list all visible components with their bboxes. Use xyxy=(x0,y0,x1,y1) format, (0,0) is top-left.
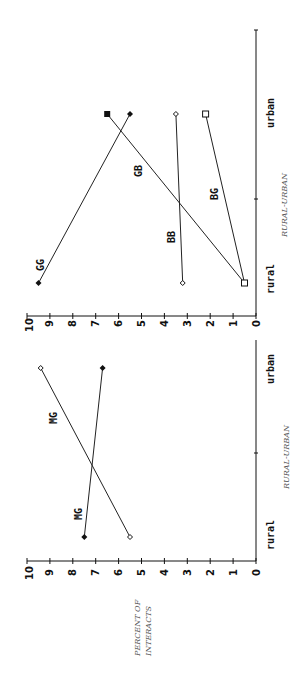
mg-label-lower: MG xyxy=(73,508,84,520)
top-x-axis-title: RURAL-URBAN xyxy=(280,172,289,238)
bg-label: BG xyxy=(209,188,220,200)
svg-text:0: 0 xyxy=(251,569,262,576)
figure: 0 1 2 3 4 5 6 7 8 9 10 rural urban RURAL… xyxy=(0,0,302,673)
svg-text:2: 2 xyxy=(205,320,216,327)
series-mg-filled-line xyxy=(84,368,102,537)
svg-text:10: 10 xyxy=(24,318,35,332)
svg-text:8: 8 xyxy=(67,320,78,327)
bottom-y-tick-labels: 0 1 2 3 4 5 6 7 8 9 10 xyxy=(24,566,262,580)
svg-text:3: 3 xyxy=(182,320,193,327)
y-axis-title-line1: PERCENT OF xyxy=(133,599,142,657)
mg-filled-rural-marker xyxy=(81,534,87,540)
series-mg-open-line xyxy=(41,368,130,537)
svg-text:1: 1 xyxy=(228,569,239,576)
svg-text:5: 5 xyxy=(136,320,147,327)
svg-text:7: 7 xyxy=(90,569,101,576)
bottom-chart: 0 1 2 3 4 5 6 7 8 9 10 rural urban RURAL… xyxy=(24,340,291,657)
svg-text:6: 6 xyxy=(113,320,124,327)
gb-label: GB xyxy=(133,165,144,177)
svg-text:5: 5 xyxy=(136,569,147,576)
y-axis-title-line2: INTERACTS xyxy=(144,605,153,657)
mg-label-upper: MG xyxy=(48,412,59,424)
svg-text:9: 9 xyxy=(44,320,55,327)
gg-label: GG xyxy=(35,259,46,271)
svg-text:3: 3 xyxy=(182,569,193,576)
svg-text:9: 9 xyxy=(44,569,55,576)
bb-label: BB xyxy=(166,231,177,243)
svg-text:4: 4 xyxy=(159,320,170,327)
top-chart: 0 1 2 3 4 5 6 7 8 9 10 rural urban RURAL… xyxy=(24,30,289,332)
bottom-x-axis-title: RURAL-URBAN xyxy=(282,424,291,490)
top-urban-label: urban xyxy=(265,98,276,128)
svg-text:6: 6 xyxy=(113,569,124,576)
gb-bg-rural-marker xyxy=(242,280,248,286)
top-y-tick-labels: 0 1 2 3 4 5 6 7 8 9 10 xyxy=(24,318,262,332)
svg-text:2: 2 xyxy=(205,569,216,576)
mg-filled-urban-marker xyxy=(100,365,106,371)
svg-text:7: 7 xyxy=(90,320,101,327)
series-gb-line xyxy=(107,114,244,283)
series-gg-line xyxy=(39,114,131,283)
mg-open-rural-marker xyxy=(128,535,133,540)
bg-urban-marker xyxy=(203,111,209,117)
svg-text:10: 10 xyxy=(24,566,35,580)
series-bb-line xyxy=(176,114,183,283)
gg-rural-marker xyxy=(36,280,42,286)
top-rural-label: rural xyxy=(265,264,276,294)
svg-text:1: 1 xyxy=(228,320,239,327)
bottom-rural-label: rural xyxy=(265,520,276,550)
svg-text:4: 4 xyxy=(159,569,170,576)
svg-text:8: 8 xyxy=(67,569,78,576)
mg-open-urban-marker xyxy=(38,366,43,371)
bottom-urban-label: urban xyxy=(265,354,276,384)
gb-urban-marker xyxy=(104,111,110,117)
bb-urban-marker xyxy=(173,112,178,117)
bb-rural-marker xyxy=(180,281,185,286)
gg-urban-marker xyxy=(127,111,133,117)
svg-text:0: 0 xyxy=(251,320,262,327)
